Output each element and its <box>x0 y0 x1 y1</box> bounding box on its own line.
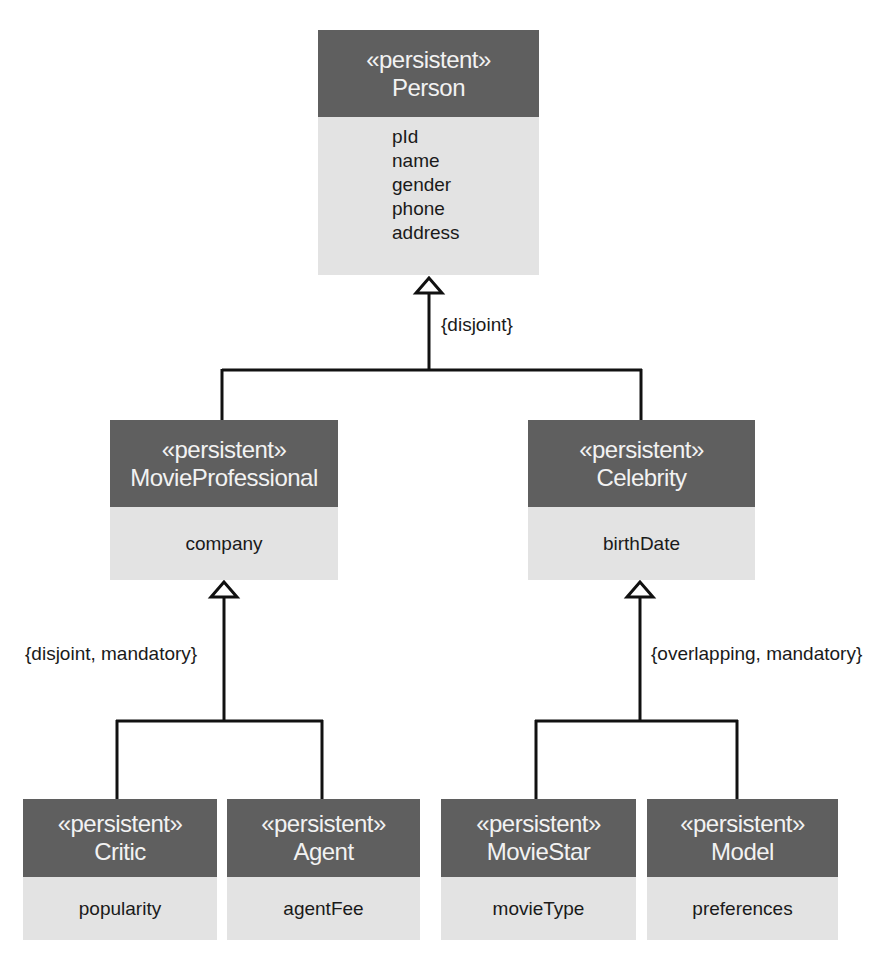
class-header: «persistent» MovieProfessional <box>110 420 338 507</box>
class-name: Critic <box>23 838 217 866</box>
attribute: company <box>185 533 262 555</box>
class-critic[interactable]: «persistent» Critic popularity <box>23 799 217 940</box>
class-name: Agent <box>227 838 420 866</box>
attribute-list: popularity <box>23 877 217 940</box>
class-model[interactable]: «persistent» Model preferences <box>647 799 838 940</box>
constraint-label: {disjoint, mandatory} <box>25 643 197 665</box>
attribute: name <box>392 149 539 173</box>
class-name: Model <box>647 838 838 866</box>
attribute-list: birthDate <box>528 507 755 580</box>
attribute: birthDate <box>603 533 680 555</box>
attribute: phone <box>392 197 539 221</box>
class-name: Celebrity <box>528 464 755 492</box>
attribute-list: company <box>110 507 338 580</box>
stereotype: «persistent» <box>441 810 636 838</box>
class-header: «persistent» Critic <box>23 799 217 877</box>
attribute-list: agentFee <box>227 877 420 940</box>
attribute: pId <box>392 125 539 149</box>
inheritance-arrow-icon <box>416 278 442 293</box>
inheritance-arrow-icon <box>627 582 653 597</box>
class-header: «persistent» Celebrity <box>528 420 755 507</box>
constraint-label: {disjoint} <box>441 314 513 336</box>
stereotype: «persistent» <box>528 436 755 464</box>
stereotype: «persistent» <box>110 436 338 464</box>
attribute: preferences <box>692 898 792 920</box>
class-header: «persistent» Agent <box>227 799 420 877</box>
attribute-list: movieType <box>441 877 636 940</box>
class-name: MovieProfessional <box>110 464 338 492</box>
class-celebrity[interactable]: «persistent» Celebrity birthDate <box>528 420 755 580</box>
stereotype: «persistent» <box>647 810 838 838</box>
stereotype: «persistent» <box>227 810 420 838</box>
stereotype: «persistent» <box>23 810 217 838</box>
class-name: Person <box>318 74 539 102</box>
constraint-label: {overlapping, mandatory} <box>651 643 862 665</box>
inheritance-arrow-icon <box>211 582 237 597</box>
class-header: «persistent» Person <box>318 30 539 117</box>
attribute: movieType <box>493 898 585 920</box>
class-movie-star[interactable]: «persistent» MovieStar movieType <box>441 799 636 940</box>
class-header: «persistent» MovieStar <box>441 799 636 877</box>
attribute: agentFee <box>283 898 363 920</box>
attribute: gender <box>392 173 539 197</box>
attribute: popularity <box>79 898 161 920</box>
stereotype: «persistent» <box>318 46 539 74</box>
class-name: MovieStar <box>441 838 636 866</box>
class-movie-professional[interactable]: «persistent» MovieProfessional company <box>110 420 338 580</box>
class-header: «persistent» Model <box>647 799 838 877</box>
class-person[interactable]: «persistent» Person pId name gender phon… <box>318 30 539 275</box>
attribute-list: pId name gender phone address <box>318 117 539 275</box>
attribute: address <box>392 221 539 245</box>
class-agent[interactable]: «persistent» Agent agentFee <box>227 799 420 940</box>
attribute-list: preferences <box>647 877 838 940</box>
